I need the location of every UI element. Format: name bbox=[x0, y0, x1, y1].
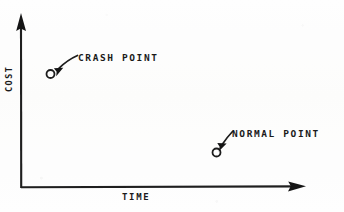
y-axis bbox=[16, 13, 26, 188]
normal-point-label: NORMAL POINT bbox=[232, 128, 320, 139]
crash-point-annotation bbox=[47, 56, 78, 79]
normal-point-leader-line bbox=[222, 132, 233, 146]
figure-canvas: COST TIME CRASH POINT NORMAL POINT bbox=[0, 0, 344, 212]
x-axis bbox=[21, 182, 306, 192]
crash-point-leader-line bbox=[59, 56, 78, 69]
normal-point-annotation bbox=[213, 132, 233, 157]
diagram-ink-layer bbox=[0, 0, 344, 212]
x-axis-label: TIME bbox=[122, 192, 150, 202]
x-axis-arrowhead bbox=[288, 182, 306, 192]
crash-point-marker bbox=[47, 70, 55, 78]
crash-point-label: CRASH POINT bbox=[78, 52, 159, 63]
y-axis-arrowhead bbox=[16, 13, 26, 31]
y-axis-label: COST bbox=[4, 66, 14, 92]
